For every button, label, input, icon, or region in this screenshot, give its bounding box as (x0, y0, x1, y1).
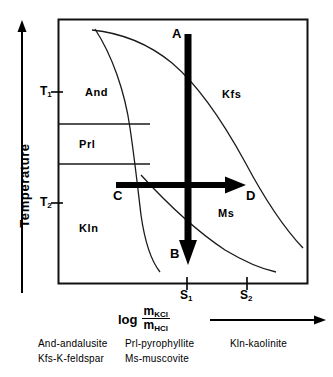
y-axis-title: Temperature (17, 131, 32, 241)
phase-diagram-figure: Temperature T1 T2 S1 S2 And Prl Kln Kfs … (0, 0, 333, 377)
path-label-c: C (113, 188, 122, 203)
x-axis-log-word: log (118, 312, 138, 327)
y-axis-ticks (51, 92, 63, 203)
field-label-ms: Ms (218, 207, 234, 219)
horizontal-reaction-curves (59, 124, 150, 164)
x-axis-ratio-numerator: mKCl (142, 305, 170, 318)
x-axis-ratio-denominator: mHCl (142, 318, 170, 332)
legend-row: And-andalusite Prl-pyrophyllite Kln-kaol… (0, 338, 333, 349)
path-label-d: D (246, 188, 255, 203)
curve-kfs-ms-boundary (92, 30, 303, 248)
field-label-kln: Kln (79, 222, 99, 234)
legend-row: Kfs-K-feldspar Ms-muscovite (0, 353, 333, 364)
y-tick-label-t1: T1 (40, 84, 52, 98)
path-arrow-a-to-b (179, 34, 197, 265)
curve-ms-kln-boundary (141, 175, 276, 272)
abbreviation-legend: And-andalusite Prl-pyrophyllite Kln-kaol… (0, 338, 333, 368)
x-tick-label-s2: S2 (240, 288, 252, 302)
legend-item-kfs: Kfs-K-feldspar (0, 353, 125, 364)
field-label-kfs: Kfs (222, 88, 242, 100)
field-label-and: And (85, 86, 108, 98)
x-axis-arrow (210, 316, 326, 325)
legend-item-and: And-andalusite (0, 338, 125, 349)
field-label-prl: Prl (79, 138, 95, 150)
legend-item-ms: Ms-muscovite (125, 353, 230, 364)
path-label-b: B (170, 246, 179, 261)
legend-item-kln: Kln-kaolinite (230, 338, 333, 349)
legend-item-empty (230, 353, 333, 364)
path-arrow-c-to-d (116, 177, 246, 194)
path-label-a: A (172, 26, 181, 41)
legend-item-prl: Prl-pyrophyllite (125, 338, 230, 349)
x-axis-ratio: mKCl mHCl (142, 305, 170, 331)
x-tick-label-s1: S1 (180, 288, 192, 302)
x-axis-title: log mKCl mHCl (118, 306, 170, 332)
curve-inner-silicate-boundary (95, 29, 160, 272)
y-tick-label-t2: T2 (40, 195, 52, 209)
